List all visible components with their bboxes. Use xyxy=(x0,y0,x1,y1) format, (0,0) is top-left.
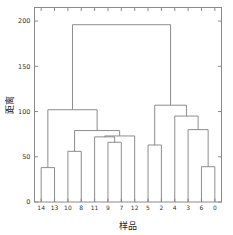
dendrogram-figure: 050100150200 1413108119712524360 距离 样品 xyxy=(0,0,233,235)
leaf-label: 10 xyxy=(64,204,72,211)
leaf-label: 5 xyxy=(146,204,150,211)
leaf-label: 3 xyxy=(186,204,190,211)
leaf-label: 9 xyxy=(106,204,110,211)
leaf-label: 7 xyxy=(119,204,123,211)
leaf-label: 0 xyxy=(213,204,217,211)
leaf-label: 6 xyxy=(200,204,204,211)
dendrogram-plot: 050100150200 1413108119712524360 距离 样品 xyxy=(0,0,233,235)
leaf-label: 8 xyxy=(79,204,83,211)
y-axis-title: 距离 xyxy=(4,96,15,114)
y-tick-label: 0 xyxy=(26,198,30,206)
leaf-label: 4 xyxy=(173,204,177,211)
leaf-label: 11 xyxy=(91,204,99,211)
y-tick-label: 150 xyxy=(18,63,30,71)
y-tick-label: 50 xyxy=(22,153,30,161)
y-tick-label: 200 xyxy=(18,17,30,25)
leaf-label: 12 xyxy=(131,204,139,211)
y-tick-label: 100 xyxy=(18,108,30,116)
leaf-label: 14 xyxy=(37,204,45,211)
leaf-label: 2 xyxy=(159,204,163,211)
x-axis-title: 样品 xyxy=(119,220,137,231)
leaf-label: 13 xyxy=(51,204,59,211)
